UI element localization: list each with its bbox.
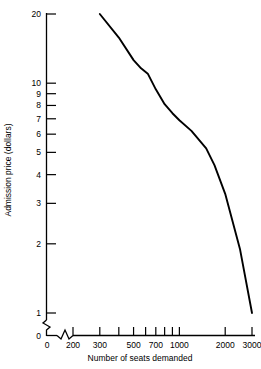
x-tick-label-700: 700 [149,340,163,350]
x-axis-origin-label: 0 [45,340,50,350]
y-tick-label-20: 20 [32,9,42,19]
y-axis: 1234567891020 0 [32,9,56,341]
demand-curve-line [100,14,252,313]
y-tick-label-5: 5 [36,147,41,157]
x-tick-label-500: 500 [126,340,140,350]
x-axis: 200300500700100020003000 0 [45,327,261,350]
y-tick-label-1: 1 [36,308,41,318]
x-tick-label-2000: 2000 [216,340,235,350]
y-tick-label-2: 2 [36,239,41,249]
x-tick-label-300: 300 [93,340,107,350]
x-tick-marks [73,327,252,336]
y-axis-title: Admission price (dollars) [3,123,13,216]
x-tick-label-3000: 3000 [243,340,261,350]
chart-container: 1234567891020 0 200300500700100020003000… [0,0,261,369]
y-tick-label-8: 8 [36,100,41,110]
y-tick-labels: 1234567891020 [32,9,42,318]
y-tick-label-10: 10 [32,78,42,88]
y-axis-break-icon [43,320,50,336]
y-tick-label-3: 3 [36,198,41,208]
y-tick-marks [47,14,57,313]
x-tick-label-1000: 1000 [170,340,189,350]
x-tick-label-200: 200 [66,340,80,350]
y-axis-origin-label: 0 [36,331,41,341]
demand-curve-chart: 1234567891020 0 200300500700100020003000… [0,0,261,369]
x-axis-title: Number of seats demanded [88,353,193,363]
y-tick-label-7: 7 [36,114,41,124]
y-tick-label-6: 6 [36,129,41,139]
x-axis-break-icon [57,330,73,339]
x-tick-labels: 200300500700100020003000 [66,340,261,350]
y-tick-label-4: 4 [36,170,41,180]
y-tick-label-9: 9 [36,89,41,99]
